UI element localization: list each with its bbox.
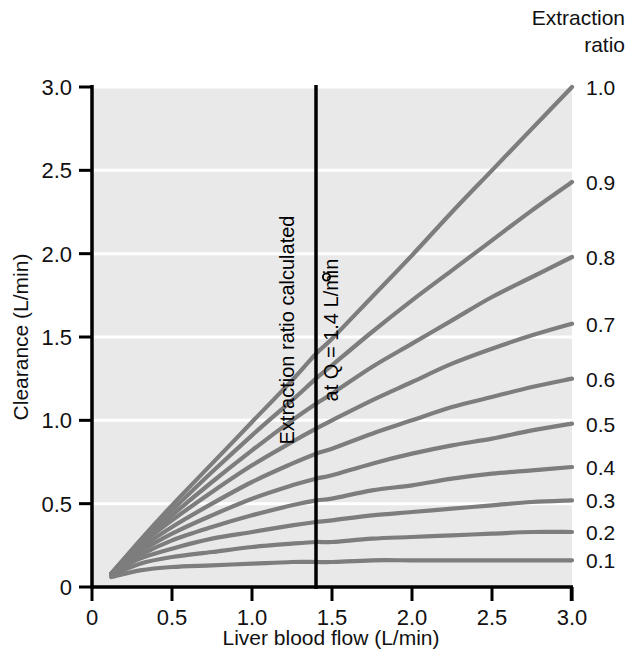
curve-label-1.0: 1.0 xyxy=(586,76,615,99)
x-tick-label: 0.5 xyxy=(157,605,188,630)
x-axis-title: Liver blood flow (L/min) xyxy=(222,626,439,649)
clearance-vs-liver-blood-flow-chart: 00.51.01.52.02.53.0 00.51.01.52.02.53.0 … xyxy=(0,0,632,651)
chart-figure: 00.51.01.52.02.53.0 00.51.01.52.02.53.0 … xyxy=(0,0,632,651)
x-tick-label: 2.5 xyxy=(477,605,508,630)
y-tick-label: 2.0 xyxy=(41,242,72,267)
curve-label-0.2: 0.2 xyxy=(586,521,615,544)
annotation-prefix: at xyxy=(320,379,342,401)
annotation-line-1: Extraction ratio calculated xyxy=(276,215,298,444)
y-tick-label: 1.5 xyxy=(41,325,72,350)
y-axis-title: Clearance (L/min) xyxy=(9,254,32,421)
curve-label-0.6: 0.6 xyxy=(586,368,615,391)
y-tick-label: 3.0 xyxy=(41,75,72,100)
legend-title-line2: ratio xyxy=(584,33,625,56)
legend-title-line1: Extraction xyxy=(532,6,625,29)
y-tick-label: 0 xyxy=(60,575,72,600)
curve-label-0.5: 0.5 xyxy=(586,413,615,436)
x-tick-label: 0 xyxy=(86,605,98,630)
curve-label-0.7: 0.7 xyxy=(586,313,615,336)
x-tick-label: 3.0 xyxy=(557,605,588,630)
annotation-q-symbol: Q xyxy=(320,364,342,380)
curve-label-0.1: 0.1 xyxy=(586,549,615,572)
curve-label-0.3: 0.3 xyxy=(586,489,615,512)
curve-label-0.4: 0.4 xyxy=(586,456,616,479)
y-tick-label: 2.5 xyxy=(41,158,72,183)
y-tick-label: 0.5 xyxy=(41,492,72,517)
curve-label-0.8: 0.8 xyxy=(586,246,615,269)
curve-label-0.9: 0.9 xyxy=(586,171,615,194)
y-tick-label: 1.0 xyxy=(41,408,72,433)
